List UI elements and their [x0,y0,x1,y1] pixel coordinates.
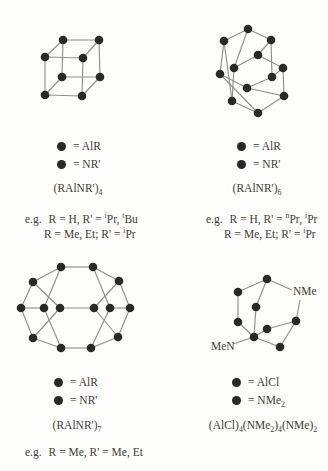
bond-line [220,41,224,74]
bond-line [45,57,83,58]
legend-row-alr: = AlR [54,373,98,391]
structure-adamantane [233,275,300,352]
atom-node [234,288,243,297]
legend-label-nr: = NR' [73,158,100,170]
bond-line [258,96,284,113]
atom-node [56,304,65,313]
example-line: e.g.R = H, R' = iPr, tBu [25,213,138,225]
atom-node [78,92,87,101]
formula-hexamer: (RAlNR')6 [217,182,297,194]
bond-line [93,267,119,281]
example-line: e.g.R = Me, R' = Me, Et [25,446,143,458]
legend-label-alr: = AlR [70,376,98,388]
bond-line [93,267,110,308]
atom-label-nme: NMe [293,285,317,297]
bond-line [224,41,232,101]
atom-node [41,91,50,100]
atom-node [41,53,50,62]
nme2-atom-dot-icon [232,396,241,405]
formula-heptamer: (RAlNR')7 [37,419,117,431]
bond-line [45,95,82,96]
bond-line [99,40,100,77]
atom-node [89,263,98,272]
atom-node [252,303,261,312]
atom-node [244,25,253,34]
atom-node [263,275,272,284]
bond-line [119,281,130,308]
legend-label-alr: = AlR [253,140,281,152]
legend-adamantane: = AlCl = NMe2 [232,373,285,409]
atom-node [114,333,123,342]
bond-line [33,282,60,308]
structure-heptamer [17,263,135,353]
legend-label-nr: = NR' [70,394,97,406]
bond-line [33,267,61,282]
legend-row-nr: = NR' [54,391,98,409]
example-line: R = Me, Et; R' = iPr [44,228,136,240]
atom-node [29,278,38,287]
atom-node [254,109,263,118]
structure-hexagonal_prism [216,25,289,118]
atom-node [216,70,225,79]
example-prefix: e.g. [206,213,223,225]
atom-node [87,344,96,353]
atom-node [95,36,104,45]
formula-tetramer: (RAlNR')4 [38,182,118,194]
bond-line [118,308,130,337]
legend-row-nr: = NR' [57,155,101,173]
structure-cube [41,36,105,101]
atom-node [126,304,135,313]
atom-node [230,64,239,73]
bond-line [94,308,118,337]
legend-label-nr: = NR' [253,158,280,170]
atom-node [29,334,38,343]
aluminium-nitrogen-cages-figure: NMe MeN = AlR = NR' (RAlNR')4 e.g.R = H,… [0,0,328,471]
atom-node [250,333,259,342]
legend-row-alr: = AlR [57,137,101,155]
atom-node [59,36,68,45]
atom-node [279,64,288,73]
atom-node [115,277,124,286]
atom-node [17,304,26,313]
legend-row-nr: = NR' [237,155,281,173]
atom-node [58,73,67,82]
example-text: R = Me, R' = Me, Et [49,446,143,458]
nr-atom-dot-icon [54,396,63,405]
atom-node [292,317,301,326]
example-prefix: e.g. [25,213,42,225]
alcl-atom-dot-icon [232,378,241,387]
example-text: R = Me, Et; R' = iPr [224,228,316,240]
atom-node [79,54,88,63]
atom-node [280,92,289,101]
atom-node [96,73,105,82]
bond-line [44,308,61,348]
atom-node [57,263,66,272]
atom-node [254,51,263,60]
legend-label-nme2: = NMe2 [248,394,285,406]
atom-node [57,344,66,353]
atom-node [243,84,252,93]
nr-atom-dot-icon [237,160,246,169]
bond-line [232,68,234,101]
legend-row-alr: = AlR [237,137,281,155]
bond-line [62,40,63,77]
atom-node [40,304,49,313]
bond-line [94,281,119,308]
legend-tetramer: = AlR = NR' [57,137,101,173]
example-text: R = H, R' = iPr, tBu [49,213,138,225]
alr-atom-dot-icon [54,378,63,387]
legend-row-nme2: = NMe2 [232,391,285,409]
example-prefix: e.g. [25,446,42,458]
example-line: R = Me, Et; R' = iPr [224,228,316,240]
bond-line [254,307,256,337]
nr-atom-dot-icon [57,160,66,169]
legend-label-alcl: = AlCl [248,376,279,388]
atom-node [268,73,277,82]
formula-adamantane: (AlCl)4(NMe2)4(NMe)2 [202,419,324,431]
bond-line [220,74,258,113]
atom-node [106,304,115,313]
atom-node [220,37,229,46]
example-text: R = H, R' = nPr, iPr [230,213,318,225]
bond-line [247,88,284,96]
atom-node [234,318,243,327]
